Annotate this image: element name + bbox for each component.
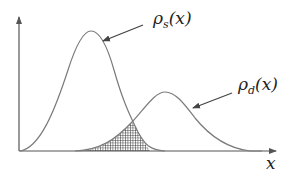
overlap-hatched-region	[80, 122, 150, 151]
rho-d-symbol: ρ	[238, 74, 248, 94]
rho-d-argument: (x)	[255, 74, 278, 94]
rho-d-label: ρd(x)	[238, 76, 278, 96]
rho-s-pointer-arrow	[103, 25, 143, 41]
rho-d-subscript: d	[248, 84, 255, 97]
rho-s-label: ρs(x)	[153, 10, 192, 30]
rho-d-pointer-arrow	[193, 93, 232, 108]
x-axis-label: x	[266, 155, 276, 172]
rho-d-curve	[75, 92, 262, 151]
rho-s-symbol: ρ	[153, 8, 163, 28]
rho-s-curve	[20, 31, 165, 151]
rho-s-argument: (x)	[169, 8, 192, 28]
